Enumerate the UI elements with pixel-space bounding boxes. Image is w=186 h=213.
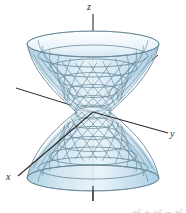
equation-fragment: x² + y² − z² <box>0 197 186 213</box>
equation-text: x² + y² − z² <box>132 206 182 213</box>
x-axis-label: x <box>6 172 10 182</box>
y-axis-label: y <box>170 129 174 139</box>
hyperboloid-svg <box>0 0 186 213</box>
surface-upper-sheet <box>27 31 159 116</box>
hyperboloid-figure: z y x x² + y² − z² <box>0 0 186 213</box>
z-axis-label: z <box>87 2 91 12</box>
surface-lower-sheet <box>27 106 159 191</box>
